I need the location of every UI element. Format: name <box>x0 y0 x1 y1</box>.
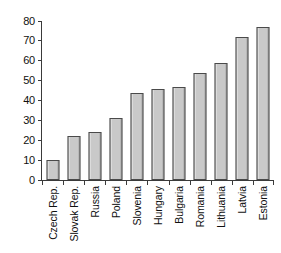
bar <box>109 118 122 180</box>
x-axis-label-slot: Poland <box>105 186 126 253</box>
x-axis-tick-mark <box>126 181 127 185</box>
x-axis-category-label: Latvia <box>237 186 248 213</box>
x-axis-label-slot: Estonia <box>253 186 274 253</box>
bar <box>236 37 249 180</box>
x-axis-tick-mark <box>63 181 64 185</box>
x-axis-label-slot: Latvia <box>232 186 253 253</box>
bar-slot <box>147 21 168 180</box>
bar-slot <box>42 21 63 180</box>
x-axis-tick-mark <box>273 181 274 185</box>
x-axis-tick-mark <box>211 181 212 185</box>
x-axis-label-slot: Romania <box>190 186 211 253</box>
x-axis-category-label: Estonia <box>258 186 269 220</box>
bar-slot <box>126 21 147 180</box>
bar <box>257 27 270 180</box>
x-axis-label-slot: Hungary <box>147 186 168 253</box>
x-axis-category-label: Bulgaria <box>174 186 185 224</box>
x-axis-tick-mark <box>253 181 254 185</box>
x-axis-category-label: Russia <box>89 186 100 218</box>
x-axis-label-slot: Slovak Rep. <box>63 186 84 253</box>
x-axis-category-label: Romania <box>195 186 206 227</box>
bar-slot <box>190 21 211 180</box>
x-axis-category-label: Slovenia <box>132 186 143 225</box>
bar-slot <box>63 21 84 180</box>
x-axis-tick-mark <box>105 181 106 185</box>
y-axis-tick-label: 0 <box>29 175 38 186</box>
x-axis-label-slot: Russia <box>84 186 105 253</box>
x-axis-category-label: Slovak Rep. <box>68 186 79 242</box>
x-axis-tick-mark <box>190 181 191 185</box>
plot-area <box>42 21 274 180</box>
x-axis-tick-mark <box>147 181 148 185</box>
x-axis-tick-mark <box>42 181 43 185</box>
y-axis: 01020304050607080 <box>0 0 42 253</box>
x-axis-tick-mark <box>84 181 85 185</box>
bar <box>130 93 143 180</box>
bar <box>67 136 80 180</box>
y-axis-tick-label: 50 <box>23 75 38 86</box>
bar-slot <box>169 21 190 180</box>
bar-slot <box>105 21 126 180</box>
bar-chart-figure: 01020304050607080 Czech Rep.Slovak Rep.R… <box>0 0 281 253</box>
y-axis-tick-label: 20 <box>23 135 38 146</box>
x-axis-tick-mark <box>169 181 170 185</box>
bar-slot <box>232 21 253 180</box>
x-axis-category-label: Czech Rep. <box>47 186 58 240</box>
y-axis-tick-label: 60 <box>23 55 38 66</box>
y-axis-tick-label: 30 <box>23 115 38 126</box>
x-axis-label-slot: Czech Rep. <box>42 186 63 253</box>
y-axis-tick-label: 10 <box>23 155 38 166</box>
x-axis-labels: Czech Rep.Slovak Rep.RussiaPolandSloveni… <box>42 186 274 253</box>
y-axis-tick-label: 80 <box>23 16 38 27</box>
x-axis-label-slot: Lithuania <box>211 186 232 253</box>
y-axis-tick-label: 70 <box>23 35 38 46</box>
bar <box>194 73 207 180</box>
bar <box>88 132 101 180</box>
x-axis-category-label: Lithuania <box>216 186 227 228</box>
bar <box>46 160 59 180</box>
x-axis-label-slot: Slovenia <box>126 186 147 253</box>
x-axis-tick-mark <box>232 181 233 185</box>
x-axis-label-slot: Bulgaria <box>169 186 190 253</box>
bar <box>173 87 186 180</box>
bar-slot <box>211 21 232 180</box>
x-axis-category-label: Poland <box>111 186 122 218</box>
x-axis-category-label: Hungary <box>153 186 164 225</box>
bar-slot <box>84 21 105 180</box>
bar <box>151 89 164 180</box>
y-axis-tick-label: 40 <box>23 95 38 106</box>
bar <box>215 63 228 180</box>
bar-slot <box>253 21 274 180</box>
